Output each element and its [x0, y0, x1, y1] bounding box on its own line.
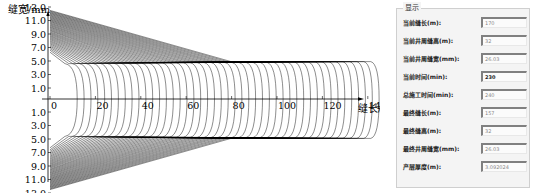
field-value-input[interactable]: 230 [481, 71, 527, 82]
panel-title: 显示 [403, 2, 421, 12]
svg-text:9.0: 9.0 [31, 161, 46, 172]
svg-text:40: 40 [142, 100, 154, 111]
svg-text:1.0: 1.0 [31, 107, 46, 118]
field-row: 最终井周缝宽(mm):26.03 [403, 143, 527, 155]
field-label: 最终缝高(m): [403, 126, 441, 135]
svg-text:11.0: 11.0 [25, 174, 46, 185]
svg-text:0: 0 [51, 100, 57, 111]
x-axis-arrow [358, 97, 364, 101]
field-row: 当前时间(min):230 [403, 71, 527, 83]
field-label: 当前时间(min): [403, 72, 447, 81]
svg-text:11.0: 11.0 [25, 15, 46, 26]
field-row: 产层厚度(m):3.092024 [403, 161, 527, 173]
field-row: 最终缝长(m):157 [403, 107, 527, 119]
svg-text:100: 100 [278, 100, 296, 111]
field-label: 产层厚度(m): [403, 162, 441, 171]
field-row: 当前井周缝宽(mm):26.03 [403, 53, 527, 65]
svg-text:1.0: 1.0 [31, 83, 46, 94]
width-profile-curve [50, 19, 304, 181]
fracture-width-chart: 13.011.09.07.05.03.01.01.03.05.07.09.011… [0, 0, 380, 193]
field-row: 当前缝长(m):170 [403, 17, 527, 29]
field-value-input[interactable]: 32 [481, 125, 527, 136]
x-axis-ticks: 020406080100120140 [50, 96, 380, 111]
svg-text:3.0: 3.0 [31, 69, 46, 80]
svg-text:5.0: 5.0 [31, 56, 46, 67]
field-label: 总施工时间(min): [403, 90, 453, 99]
y-axis-ticks: 13.011.09.07.05.03.01.01.03.05.07.09.011… [25, 2, 51, 194]
width-profile-curve [50, 33, 194, 168]
field-value-input[interactable]: 3.092024 [481, 161, 527, 172]
field-label: 最终井周缝宽(mm): [403, 144, 459, 153]
field-label: 最终缝长(m): [403, 108, 441, 117]
field-value-input[interactable]: 32 [481, 35, 527, 46]
field-row: 总施工时间(min):240 [403, 89, 527, 101]
field-value-input[interactable]: 26.03 [481, 53, 527, 64]
field-value-input[interactable]: 240 [481, 89, 527, 100]
x-axis-label: 缝长/m [358, 102, 380, 114]
field-value-input[interactable]: 170 [481, 17, 527, 28]
field-value-input[interactable]: 26.03 [481, 143, 527, 154]
field-value-input[interactable]: 157 [481, 107, 527, 118]
width-profile-curve [50, 24, 263, 176]
svg-text:7.0: 7.0 [31, 42, 46, 53]
field-label: 当前缝长(m): [403, 18, 441, 27]
svg-text:80: 80 [233, 100, 245, 111]
svg-text:3.0: 3.0 [31, 120, 46, 131]
svg-text:5.0: 5.0 [31, 134, 46, 145]
svg-text:9.0: 9.0 [31, 29, 46, 40]
svg-text:120: 120 [323, 100, 341, 111]
field-row: 最终缝高(m):32 [403, 125, 527, 137]
y-axis-label: 缝宽/mm [8, 3, 51, 15]
display-panel: 显示 当前缝长(m):170当前井周缝高(m):32当前井周缝宽(mm):26.… [396, 8, 530, 188]
field-label: 当前井周缝宽(mm): [403, 54, 459, 63]
field-label: 当前井周缝高(m): [403, 36, 453, 45]
field-row: 当前井周缝高(m):32 [403, 35, 527, 47]
svg-text:7.0: 7.0 [31, 147, 46, 158]
svg-text:13.0: 13.0 [25, 188, 46, 194]
svg-text:60: 60 [187, 100, 199, 111]
svg-text:20: 20 [96, 100, 108, 111]
